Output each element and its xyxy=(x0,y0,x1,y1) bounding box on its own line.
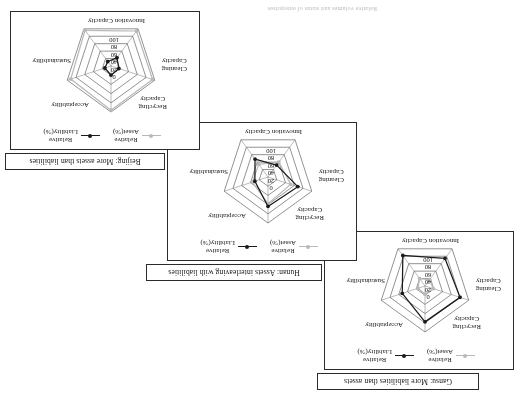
panel-title-beijing: Beijing: More assets than liabilities xyxy=(5,153,165,170)
legend-gansu: Relative Asset(%) Relative Liability(%) xyxy=(357,347,475,364)
axis-label-recycling: RecyclingCapacity xyxy=(139,95,167,111)
legend-label-liability-l1: Relative xyxy=(363,356,386,364)
axis-label-cleaning: CleaningCapacity xyxy=(162,57,187,73)
axis-label-acceptability: Acceptability xyxy=(365,321,403,329)
legend-hunan: Relative Asset(%) Relative Liability(%) xyxy=(200,238,318,255)
figure-caption: Relative volumes and status of enterpris… xyxy=(267,6,377,12)
panel-title-gansu: Gansu: More liabilities than assets xyxy=(317,373,479,390)
axis-label-innovation: Innovation Capacity xyxy=(88,17,145,25)
legend-marker-liability-icon xyxy=(81,131,100,140)
legend-label-liability: Relative Liability(%) xyxy=(43,127,78,144)
axis-label-acceptability: Acceptability xyxy=(208,212,246,220)
radar-chart-hunan: Acceptability Sustainability Innovation … xyxy=(184,124,338,232)
legend-item-liability: Relative Liability(%) xyxy=(357,347,414,364)
axis-label-innovation: Innovation Capacity xyxy=(402,237,459,245)
legend-label-asset: Relative Asset(%) xyxy=(113,127,139,144)
legend-label-liability-l2: Liability(%) xyxy=(357,348,392,356)
axis-label-cleaning: CleaningCapacity xyxy=(319,168,344,184)
legend-label-liability-l2: Liability(%) xyxy=(200,239,235,247)
axis-label-sustainability: Sustainability xyxy=(190,168,229,176)
radial-tick-labels: 020406080100 xyxy=(109,37,119,81)
axis-label-acceptability: Acceptability xyxy=(51,101,89,109)
axis-label-cleaning: CleaningCapacity xyxy=(476,277,501,293)
axis-label-innovation: Innovation Capacity xyxy=(245,128,302,136)
figure-root: Gansu: More liabilities than assets Rela… xyxy=(0,0,527,398)
legend-marker-liability-icon xyxy=(395,351,414,360)
legend-label-liability: Relative Liability(%) xyxy=(200,238,235,255)
legend-label-asset-l1: Relative xyxy=(428,356,451,364)
legend-marker-asset-icon xyxy=(456,351,475,360)
legend-item-asset: Relative Asset(%) xyxy=(270,238,318,255)
legend-label-liability: Relative Liability(%) xyxy=(357,347,392,364)
panel-title-hunan-text: Hunan: Assets interleaving with liabilit… xyxy=(168,268,300,277)
legend-label-asset-l2: Asset(%) xyxy=(270,239,296,247)
legend-item-asset: Relative Asset(%) xyxy=(113,127,161,144)
legend-beijing: Relative Asset(%) Relative Liability(%) xyxy=(43,127,161,144)
legend-item-liability: Relative Liability(%) xyxy=(43,127,100,144)
radar-chart-gansu: Acceptability Sustainability Innovation … xyxy=(341,233,495,341)
legend-item-asset: Relative Asset(%) xyxy=(427,347,475,364)
legend-marker-liability-icon xyxy=(238,242,257,251)
legend-label-asset-l1: Relative xyxy=(114,136,137,144)
panel-beijing: Relative Asset(%) Relative Liability(%) … xyxy=(10,11,200,150)
legend-marker-asset-icon xyxy=(142,131,161,140)
legend-label-asset-l2: Asset(%) xyxy=(113,128,139,136)
legend-label-liability-l2: Liability(%) xyxy=(43,128,78,136)
radial-tick-labels: 020406080100 xyxy=(423,257,433,301)
legend-label-asset: Relative Asset(%) xyxy=(270,238,296,255)
axis-label-recycling: RecyclingCapacity xyxy=(453,315,481,331)
panel-title-beijing-text: Beijing: More assets than liabilities xyxy=(29,157,140,166)
legend-label-liability-l1: Relative xyxy=(206,247,229,255)
axis-label-recycling: RecyclingCapacity xyxy=(296,206,324,222)
axis-label-sustainability: Sustainability xyxy=(33,57,72,65)
legend-item-liability: Relative Liability(%) xyxy=(200,238,257,255)
legend-label-asset: Relative Asset(%) xyxy=(427,347,453,364)
panel-title-gansu-text: Gansu: More liabilities than assets xyxy=(344,377,452,386)
legend-marker-asset-icon xyxy=(299,242,318,251)
legend-label-asset-l2: Asset(%) xyxy=(427,348,453,356)
legend-label-liability-l1: Relative xyxy=(49,136,72,144)
panel-title-hunan: Hunan: Assets interleaving with liabilit… xyxy=(146,264,322,281)
axis-label-sustainability: Sustainability xyxy=(347,277,386,285)
legend-label-asset-l1: Relative xyxy=(271,247,294,255)
radar-chart-beijing: Acceptability Sustainability Innovation … xyxy=(27,13,181,121)
radial-tick-labels: 020406080100 xyxy=(266,148,276,192)
